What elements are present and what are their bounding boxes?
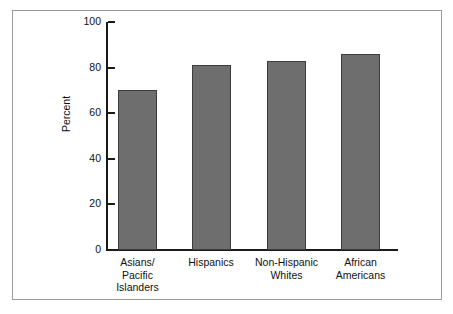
y-tick-label-text: 80 [75, 62, 101, 72]
y-tick-label-text: 40 [75, 153, 101, 163]
category-label: African Americans [318, 256, 404, 281]
category-label: Hispanics [168, 256, 254, 269]
bar [118, 90, 157, 250]
y-tick-label: 20 [75, 198, 101, 208]
y-tick-label-text: 0 [75, 244, 101, 254]
bar [192, 65, 231, 250]
bar [341, 54, 380, 250]
y-tick-label: 40 [75, 153, 101, 163]
y-tick-mark [108, 158, 115, 160]
bar-chart-figure: 020406080100 Percent Asians/ Pacific Isl… [0, 0, 453, 314]
plot-area: 020406080100 Percent Asians/ Pacific Isl… [0, 0, 453, 314]
y-tick-label-text: 100 [75, 16, 101, 26]
y-tick-mark [108, 112, 115, 114]
bar [267, 61, 306, 250]
y-tick-label: 60 [75, 107, 101, 117]
y-tick-mark [108, 21, 115, 23]
y-tick-label-text: 60 [75, 107, 101, 117]
y-tick-label-text: 20 [75, 198, 101, 208]
y-axis-line [106, 22, 108, 251]
y-tick-mark [108, 203, 115, 205]
y-tick-label: 100 [75, 16, 101, 26]
y-tick-label: 0 [75, 244, 101, 254]
y-tick-mark [108, 249, 115, 251]
y-axis-title: Percent [60, 84, 72, 144]
y-tick-mark [108, 67, 115, 69]
y-tick-label: 80 [75, 62, 101, 72]
